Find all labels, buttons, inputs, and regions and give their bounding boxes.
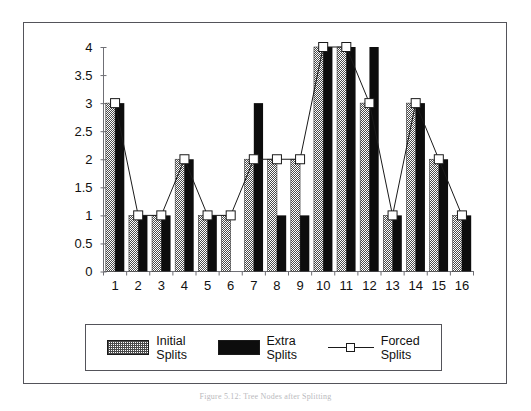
bar-initial-splits: [106, 103, 115, 271]
forced-splits-marker: [157, 211, 166, 220]
forced-splits-marker: [365, 99, 374, 108]
figure-caption: Figure 5.12: Tree Nodes after Splitting: [0, 392, 531, 411]
forced-splits-marker: [203, 211, 212, 220]
x-tick-label: 12: [362, 278, 376, 293]
bar-initial-splits: [291, 159, 300, 271]
legend-item-extra-splits: ExtraSplits: [218, 334, 298, 362]
legend-label-forced-line1: Forced: [381, 334, 420, 348]
forced-splits-marker: [388, 211, 397, 220]
bar-initial-splits: [314, 47, 323, 272]
bar-extra-splits: [369, 47, 378, 272]
bar-initial-splits: [337, 47, 346, 272]
x-tick-label: 16: [455, 278, 469, 293]
x-axis-ticks: [104, 272, 474, 276]
x-tick-label: 13: [385, 278, 399, 293]
forced-splits-marker: [457, 211, 466, 220]
y-axis-tick-labels: 00.511.522.533.54: [74, 40, 92, 280]
bar-extra-splits: [115, 103, 124, 271]
x-tick-label: 2: [135, 278, 142, 293]
bar-initial-splits: [245, 159, 254, 271]
forced-splits-marker: [296, 155, 305, 164]
chart-legend: InitialSplits ExtraSplits ForcedSplits: [85, 324, 442, 371]
bar-extra-splits: [161, 215, 170, 271]
forced-splits-marker: [180, 155, 189, 164]
y-tick-label: 0: [85, 264, 92, 279]
forced-splits-marker: [319, 43, 328, 52]
y-tick-label: 1: [85, 208, 92, 223]
x-tick-label: 9: [296, 278, 303, 293]
legend-label-extra: ExtraSplits: [267, 334, 298, 362]
x-tick-label: 11: [340, 278, 354, 293]
x-tick-label: 6: [227, 278, 234, 293]
bar-initial-splits: [383, 215, 392, 271]
bar-initial-splits: [360, 103, 369, 271]
x-tick-label: 7: [250, 278, 257, 293]
forced-splits-marker: [111, 99, 120, 108]
legend-label-initial: InitialSplits: [156, 334, 187, 362]
bar-extra-splits: [346, 47, 355, 272]
legend-label-extra-line2: Splits: [267, 348, 298, 362]
legend-label-initial-line1: Initial: [156, 334, 185, 348]
bar-initial-splits: [129, 215, 138, 271]
y-tick-label: 1.5: [74, 180, 92, 195]
bar-extra-splits: [277, 215, 286, 271]
legend-open-square-marker-icon: [346, 343, 355, 352]
bar-extra-splits: [138, 215, 147, 271]
legend-label-forced-line2: Splits: [381, 348, 412, 362]
forced-splits-marker: [249, 155, 258, 164]
forced-splits-marker: [272, 155, 281, 164]
bar-initial-splits: [198, 215, 207, 271]
y-tick-label: 3.5: [74, 68, 92, 83]
bar-initial-splits: [453, 215, 462, 271]
legend-item-initial-splits: InitialSplits: [107, 334, 187, 362]
bar-extra-splits: [323, 47, 332, 272]
bar-initial-splits: [152, 215, 161, 271]
bar-extra-splits: [184, 159, 193, 271]
y-tick-label: 2.5: [74, 124, 92, 139]
forced-splits-marker: [411, 99, 420, 108]
x-tick-label: 3: [158, 278, 165, 293]
legend-label-initial-line2: Splits: [156, 348, 187, 362]
forced-splits-marker: [134, 211, 143, 220]
bar-extra-splits: [254, 103, 263, 271]
x-tick-label: 14: [408, 278, 422, 293]
figure-frame: 00.511.522.533.54 1234567891011121314151…: [23, 22, 507, 384]
bar-extra-splits: [208, 215, 217, 271]
y-tick-label: 4: [85, 40, 92, 55]
x-axis-tick-labels: 12345678910111213141516: [111, 278, 469, 293]
legend-item-forced-splits: ForcedSplits: [328, 334, 420, 362]
bar-initial-splits: [175, 159, 184, 271]
x-tick-label: 10: [316, 278, 330, 293]
legend-label-extra-line1: Extra: [267, 334, 296, 348]
bar-extra-splits: [462, 215, 471, 271]
x-tick-label: 8: [273, 278, 280, 293]
x-tick-label: 1: [111, 278, 118, 293]
x-tick-label: 4: [181, 278, 188, 293]
bar-extra-splits: [439, 159, 448, 271]
forced-splits-marker: [342, 43, 351, 52]
legend-swatch-initial-icon: [107, 340, 149, 355]
bar-extra-splits: [300, 215, 309, 271]
legend-label-forced: ForcedSplits: [381, 334, 420, 362]
chart-plot-area: 00.511.522.533.54 1234567891011121314151…: [24, 23, 508, 313]
bar-extra-splits: [416, 103, 425, 271]
bar-initial-splits: [221, 215, 230, 271]
y-tick-label: 2: [85, 152, 92, 167]
legend-line-marker-forced-icon: [328, 340, 374, 355]
bar-extra-splits: [393, 215, 402, 271]
bar-line-chart: 00.511.522.533.54 1234567891011121314151…: [24, 23, 508, 313]
x-tick-label: 5: [204, 278, 211, 293]
bar-initial-splits: [430, 159, 439, 271]
x-tick-label: 15: [432, 278, 446, 293]
forced-splits-marker: [434, 155, 443, 164]
bar-initial-splits: [268, 159, 277, 271]
y-tick-label: 0.5: [74, 236, 92, 251]
bar-initial-splits: [406, 103, 415, 271]
forced-splits-marker: [226, 211, 235, 220]
y-tick-label: 3: [85, 96, 92, 111]
legend-swatch-extra-icon: [218, 340, 260, 355]
